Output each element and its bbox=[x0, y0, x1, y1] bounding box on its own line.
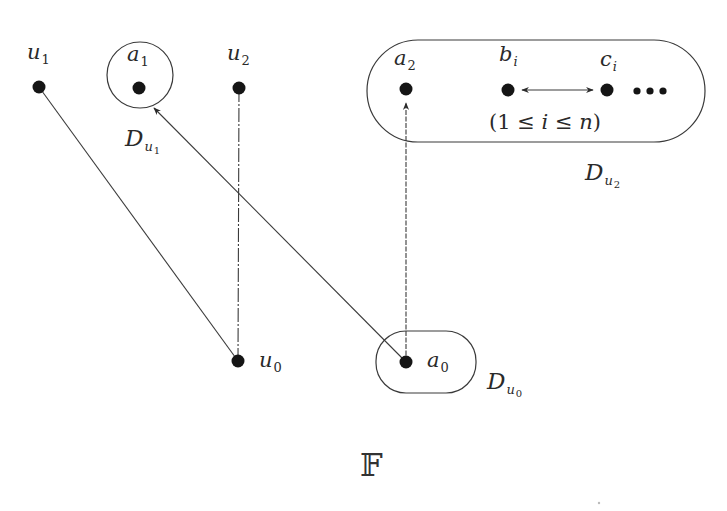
label-du1: Du1 bbox=[125, 127, 160, 156]
region-du0-rounded-rect bbox=[376, 331, 476, 393]
ellipsis-dots bbox=[633, 87, 666, 94]
label-u2: u2 bbox=[227, 43, 250, 67]
figure-title: 𝔽 bbox=[360, 449, 383, 481]
label-a1: a1 bbox=[127, 44, 149, 68]
node-u1 bbox=[33, 81, 46, 94]
node-ci bbox=[601, 84, 614, 97]
node-bi bbox=[502, 84, 515, 97]
node-u0 bbox=[232, 355, 245, 368]
node-a2 bbox=[400, 83, 413, 96]
node-u2 bbox=[233, 82, 246, 95]
index-condition: (1 ≤ i ≤ n) bbox=[489, 112, 601, 133]
label-du2: Du2 bbox=[585, 161, 620, 190]
node-a1 bbox=[133, 82, 146, 95]
node-a0 bbox=[400, 356, 413, 369]
label-ci: ci bbox=[600, 49, 617, 73]
label-a0: a0 bbox=[427, 350, 449, 374]
label-a2: a2 bbox=[394, 48, 416, 72]
graph-canvas bbox=[0, 0, 727, 511]
edge-a0-a1-arrow bbox=[154, 108, 406, 362]
label-du0: Du0 bbox=[487, 370, 522, 399]
label-u1: u1 bbox=[27, 42, 50, 66]
label-bi: bi bbox=[499, 44, 518, 68]
scan-speck bbox=[598, 502, 600, 504]
edge-u2-u0 bbox=[238, 88, 239, 361]
label-u0: u0 bbox=[259, 350, 282, 374]
